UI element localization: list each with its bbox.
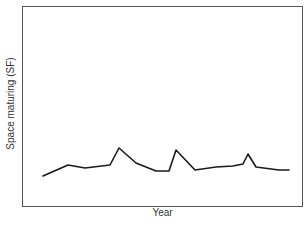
y-axis-label: Space maturing (SF): [5, 57, 16, 149]
line-chart: [0, 0, 306, 227]
plot-frame: [23, 7, 303, 207]
series-line-space-maturing: [43, 148, 289, 176]
x-axis-label: Year: [22, 207, 303, 218]
y-axis-label-container: Space maturing (SF): [2, 0, 18, 206]
